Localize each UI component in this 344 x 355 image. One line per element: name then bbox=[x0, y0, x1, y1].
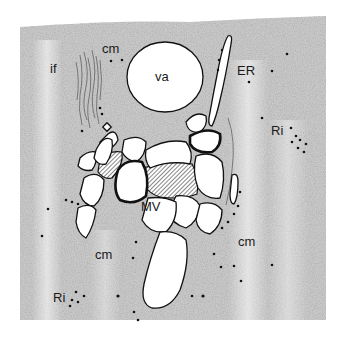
label-if: if bbox=[50, 61, 57, 76]
label-ri-right: Ri bbox=[271, 123, 283, 138]
label-cm-right: cm bbox=[238, 234, 255, 249]
diagram-figure: if cm va ER Ri MV cm cm Ri bbox=[0, 0, 344, 355]
label-va: va bbox=[155, 69, 170, 84]
label-mv: MV bbox=[141, 199, 161, 214]
label-cm-left: cm bbox=[95, 247, 112, 262]
label-er: ER bbox=[237, 63, 255, 78]
label-cm-top: cm bbox=[102, 41, 119, 56]
label-ri-left: Ri bbox=[53, 290, 65, 305]
